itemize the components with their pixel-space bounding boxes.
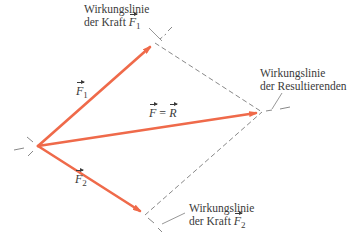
label-f2-prefix: der Kraft [189, 215, 231, 227]
label-line-of-action-f2: Wirkungslinie der Kraft F2 [189, 202, 254, 232]
dashed-line-f1-to-r [155, 43, 262, 112]
label-f1-prefix: der Kraft [84, 16, 126, 28]
r-symbol: R [169, 106, 176, 121]
label-line-of-action-resultant: Wirkungslinie der Resultierenden [260, 67, 347, 93]
f1-line-extension-2 [168, 27, 172, 31]
label-r-line1: Wirkungslinie [260, 67, 347, 80]
leader-f1 [149, 28, 162, 41]
label-f2-symbol: F [234, 215, 241, 228]
f2-line-extension [148, 218, 154, 223]
label-f2-subscript: 2 [241, 220, 246, 230]
label-line-of-action-f1: Wirkungslinie der Kraft F1 [84, 3, 149, 33]
f2-subscript: 2 [82, 178, 87, 188]
f2-line-extension-2 [158, 228, 162, 232]
vector-label-resultant: F = R [149, 106, 176, 121]
label-f1-symbol: F [129, 16, 136, 29]
f1-subscript: 1 [83, 90, 88, 100]
f-symbol: F [149, 106, 156, 121]
label-r-line2: der Resultierenden [260, 80, 347, 93]
vector-label-f1: F1 [76, 84, 88, 100]
force-parallelogram-diagram: F1 F2 F = R Wirkungslinie der Kraft F1 W… [0, 0, 360, 242]
label-f2-vector: F2 [234, 214, 246, 228]
equals-sign: = [159, 106, 166, 120]
leader-r [272, 93, 282, 109]
r-line-extension [266, 110, 272, 111]
vector-label-f2: F2 [75, 172, 87, 188]
f1-line-extension [160, 34, 166, 39]
diagram-graphics [0, 0, 360, 242]
origin-tick-lower [28, 151, 33, 156]
label-f1-vector: F1 [129, 15, 141, 29]
leader-f2 [162, 213, 185, 224]
label-f1-subscript: 1 [136, 21, 141, 31]
force-arrows [38, 47, 256, 211]
origin-tick-left [14, 148, 24, 150]
parallelogram-dashed-lines [145, 43, 262, 215]
r-line-extension-2 [280, 107, 290, 109]
arrow-f2 [38, 146, 140, 211]
f2-symbol: F [75, 172, 82, 187]
f1-symbol: F [76, 84, 83, 99]
origin-tick-upper [27, 137, 33, 142]
